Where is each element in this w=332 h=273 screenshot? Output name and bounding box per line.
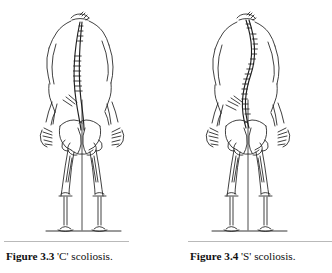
figure-description-label: 'C' scoliosis. xyxy=(57,250,113,262)
figure-number-label: Figure 3.4 xyxy=(190,250,238,262)
figure-panel-s-scoliosis: Figure 3.4 'S' scoliosis. xyxy=(166,0,332,273)
caption-divider-rule xyxy=(4,241,129,242)
figure-description-label: 'S' scoliosis. xyxy=(241,250,295,262)
s-scoliosis-skeleton-drawing xyxy=(166,4,332,238)
figure-caption-c-scoliosis: Figure 3.3 'C' scoliosis. xyxy=(0,241,166,273)
textbook-figure-page: Figure 3.3 'C' scoliosis. xyxy=(0,0,332,273)
c-scoliosis-skeleton-drawing xyxy=(0,4,166,238)
caption-line: Figure 3.3 'C' scoliosis. xyxy=(6,250,113,263)
figure-caption-s-scoliosis: Figure 3.4 'S' scoliosis. xyxy=(166,241,332,273)
figure-number-label: Figure 3.3 xyxy=(6,250,54,262)
figure-panel-c-scoliosis: Figure 3.3 'C' scoliosis. xyxy=(0,0,166,273)
caption-line: Figure 3.4 'S' scoliosis. xyxy=(190,250,295,263)
caption-divider-rule xyxy=(188,241,332,242)
